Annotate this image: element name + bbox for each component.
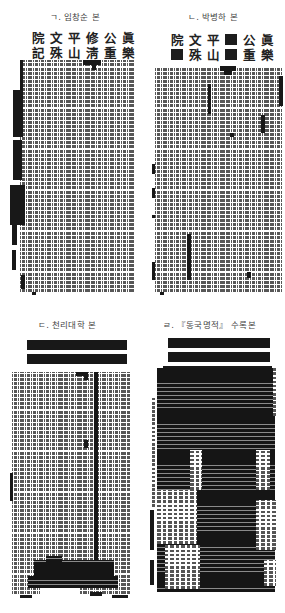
redaction-block: [46, 556, 62, 562]
title-char: 重: [240, 47, 258, 62]
title-char: 樂: [119, 45, 137, 60]
redaction-bar: [112, 595, 128, 598]
redaction-bar: [90, 592, 102, 596]
title-char: 重: [101, 45, 119, 60]
title-char: 山: [65, 45, 83, 60]
caption-d: ㄹ. 『동국명적』 수록본: [163, 318, 256, 330]
redaction-bar: [208, 84, 211, 114]
title-char: 樂: [258, 47, 276, 62]
redaction-bar: [20, 595, 32, 598]
redacted-title-char: [225, 34, 237, 45]
redaction-bar: [20, 60, 23, 90]
redaction-bar: [13, 90, 23, 137]
redacted-title-bar: [27, 340, 127, 350]
redaction-bar: [224, 71, 232, 75]
visible-text-column: [190, 450, 202, 490]
redaction-bar: [152, 215, 155, 218]
redaction-bar: [10, 185, 25, 225]
redaction-bar: [187, 234, 191, 280]
redacted-title-bar: [168, 352, 270, 362]
blank-space: [40, 588, 80, 594]
title-char: 淸: [83, 45, 101, 60]
redaction-bar: [84, 440, 88, 448]
caption-c: ㄷ. 천리대학 본: [38, 318, 96, 330]
redaction-block: [28, 576, 118, 588]
text-body-a: [20, 60, 135, 292]
title-char: 殊: [186, 47, 204, 62]
redaction-bar: [230, 133, 234, 137]
redaction-bar: [13, 140, 22, 180]
visible-text-region: [256, 500, 278, 550]
title-char: 山: [204, 47, 222, 62]
visible-text-column: [256, 450, 270, 490]
title-char: 院: [168, 32, 186, 47]
redaction-bar: [152, 262, 155, 280]
redacted-title-char: [225, 49, 237, 60]
title-grid-a: 院 文 平 修 公 眞 記 殊 山 淸 重 樂: [29, 30, 137, 60]
title-char: 記: [29, 45, 47, 60]
visible-text-region: [264, 560, 276, 586]
text-body-b: [155, 66, 283, 292]
redaction-bar: [160, 292, 164, 295]
redaction-bar: [94, 372, 98, 572]
redaction-bar: [32, 292, 36, 295]
caption-b: ㄴ. 박병하 본: [188, 10, 238, 22]
redacted-title-bar: [27, 354, 127, 364]
visible-text-column: [273, 368, 278, 416]
redaction-bar: [84, 376, 88, 380]
redaction-bar: [152, 188, 155, 198]
redaction-bar: [12, 250, 16, 270]
redaction-bar: [261, 115, 265, 133]
redaction-bar: [150, 560, 154, 585]
redaction-bar: [279, 76, 283, 106]
title-char: 殊: [47, 45, 65, 60]
visible-text-region: [165, 545, 200, 589]
redaction-bar: [150, 510, 154, 550]
redaction-bar: [92, 65, 96, 70]
redaction-bar: [12, 225, 17, 245]
redaction-bar: [21, 275, 25, 289]
redaction-bar: [247, 272, 251, 278]
title-grid-b: 院 文 平 公 眞 殊 山 重 樂: [168, 32, 276, 62]
visible-text-region: [157, 490, 197, 544]
redacted-title-char: [171, 49, 183, 60]
redaction-bar: [152, 164, 155, 174]
redacted-title-bar: [168, 338, 270, 348]
redaction-bar: [10, 473, 13, 501]
caption-a: ㄱ. 임창순 본: [50, 10, 100, 22]
